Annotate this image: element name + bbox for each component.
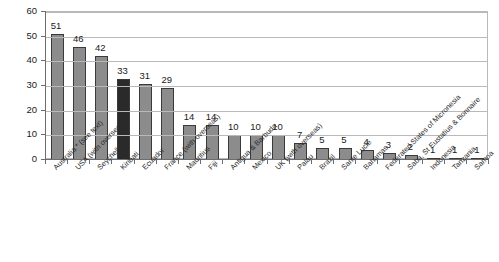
- gridline: [46, 111, 487, 112]
- bar-value-label: 51: [42, 21, 70, 31]
- y-axis-tick-label: 30: [0, 80, 37, 90]
- bar-value-label: 42: [86, 43, 114, 53]
- y-axis-tick-label: 0: [0, 154, 37, 164]
- y-axis-tick-label: 20: [0, 105, 37, 115]
- y-axis-line: [45, 11, 46, 160]
- x-axis-tick-mark: [45, 160, 46, 164]
- y-axis-tick-label: 60: [0, 6, 37, 16]
- bar-value-label: 29: [153, 75, 181, 85]
- bar-value-label: 46: [64, 34, 92, 44]
- bar: [139, 84, 152, 160]
- gridline: [46, 86, 487, 87]
- y-axis-tick-label: 10: [0, 129, 37, 139]
- gridline: [46, 37, 487, 38]
- bar: [51, 34, 64, 160]
- x-axis-tick-mark: [222, 160, 223, 164]
- gridline: [46, 12, 487, 13]
- y-axis-tick-label: 40: [0, 55, 37, 65]
- x-axis-category-label: Fiji: [207, 159, 219, 171]
- bar-chart: 0102030405060 51464233312914141010107554…: [0, 0, 499, 262]
- gridline: [46, 61, 487, 62]
- y-axis-tick-label: 50: [0, 31, 37, 41]
